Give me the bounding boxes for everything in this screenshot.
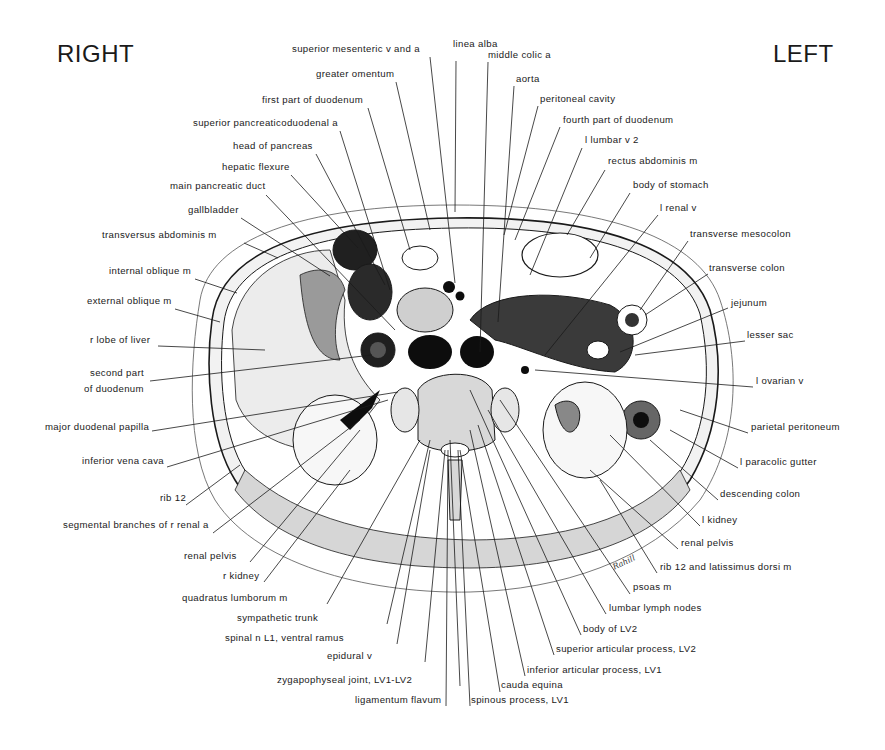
label-superior-mesenteric-v-and-a: superior mesenteric v and a (292, 43, 420, 54)
label-cauda-equina: cauda equina (501, 679, 563, 690)
label-quadratus-lumborum-m: quadratus lumborum m (182, 592, 288, 603)
label-second-part-of-duodenum-2: of duodenum (84, 383, 144, 394)
cauda-equina (441, 443, 469, 457)
label-rib-12-and-latissimus-dorsi-m: rib 12 and latissimus dorsi m (660, 561, 792, 572)
label-superior-pancreaticoduodenal-a: superior pancreaticoduodenal a (193, 117, 338, 128)
label-inferior-articular-process-lv1: inferior articular process, LV1 (527, 664, 662, 675)
label-renal-pelvis-r: renal pelvis (184, 550, 237, 561)
label-major-duodenal-papilla: major duodenal papilla (45, 421, 149, 432)
body-of-lv2 (418, 374, 495, 451)
leader-line (567, 170, 605, 235)
label-transverse-mesocolon: transverse mesocolon (690, 228, 791, 239)
label-middle-colic-a: middle colic a (488, 49, 551, 60)
label-sympathetic-trunk: sympathetic trunk (237, 612, 318, 623)
l-ovarian-v (521, 366, 529, 374)
label-superior-articular-process-lv2: superior articular process, LV2 (556, 643, 696, 654)
label-r-kidney: r kidney (223, 570, 259, 581)
label-main-pancreatic-duct: main pancreatic duct (170, 180, 266, 191)
label-gallbladder: gallbladder (188, 204, 239, 215)
label-jejunum: jejunum (731, 297, 767, 308)
label-rib-12: rib 12 (160, 492, 186, 503)
leader-line (504, 106, 538, 235)
label-linea-alba: linea alba (453, 38, 498, 49)
label-inferior-vena-cava: inferior vena cava (82, 455, 164, 466)
label-l-ovarian-v: l ovarian v (756, 375, 804, 386)
leader-line (186, 465, 240, 505)
label-segmental-branches-of-r-renal-a: segmental branches of r renal a (63, 519, 209, 530)
label-fourth-part-of-duodenum: fourth part of duodenum (563, 114, 673, 125)
label-transverse-colon: transverse colon (709, 262, 785, 273)
leader-line (455, 61, 456, 212)
leader-line (396, 82, 430, 230)
head-of-pancreas (397, 288, 453, 332)
label-transversus-abdominis-m: transversus abdominis m (102, 229, 217, 240)
label-peritoneal-cavity: peritoneal cavity (540, 93, 615, 104)
inferior-vena-cava (408, 335, 452, 369)
label-greater-omentum: greater omentum (316, 68, 394, 79)
label-l-lumbar-v-2: l lumbar v 2 (585, 134, 639, 145)
greater-omentum-vessel (402, 246, 438, 270)
hepatic-flexure-lower (348, 264, 392, 320)
label-r-lobe-of-liver: r lobe of liver (90, 334, 150, 345)
label-aorta: aorta (516, 73, 540, 84)
label-lumbar-lymph-nodes: lumbar lymph nodes (609, 602, 702, 613)
l-kidney (543, 382, 627, 478)
label-l-renal-v: l renal v (660, 202, 697, 213)
label-l-paracolic-gutter: l paracolic gutter (740, 456, 817, 467)
label-l-kidney: l kidney (702, 514, 737, 525)
label-psoas-m: psoas m (633, 581, 672, 592)
label-descending-colon: descending colon (720, 488, 800, 499)
superior-mesenteric-v (443, 281, 455, 293)
label-lesser-sac: lesser sac (747, 329, 794, 340)
label-internal-oblique-m: internal oblique m (109, 265, 191, 276)
label-renal-pelvis-l: renal pelvis (681, 537, 734, 548)
label-rectus-abdominis-m: rectus abdominis m (608, 155, 697, 166)
label-ligamentum-flavum: ligamentum flavum (355, 694, 441, 705)
label-body-of-lv2: body of LV2 (583, 623, 637, 634)
label-zygapophyseal-joint: zygapophyseal joint, LV1-LV2 (277, 674, 412, 685)
label-second-part-of-duodenum-1: second part (90, 367, 144, 378)
label-body-of-stomach: body of stomach (633, 179, 709, 190)
label-spinal-n-l1-ventral-ramus: spinal n L1, ventral ramus (225, 632, 344, 643)
label-spinous-process-lv1: spinous process, LV1 (471, 694, 569, 705)
psoas-m-r (391, 388, 419, 432)
label-external-oblique-m: external oblique m (87, 295, 172, 306)
label-hepatic-flexure: hepatic flexure (222, 161, 290, 172)
psoas-m (491, 388, 519, 432)
label-epidural-v: epidural v (327, 650, 372, 661)
label-head-of-pancreas: head of pancreas (233, 140, 313, 151)
superior-mesenteric-a (456, 292, 465, 301)
label-first-part-of-duodenum: first part of duodenum (262, 94, 363, 105)
label-parietal-peritoneum: parietal peritoneum (751, 421, 840, 432)
body-of-stomach (522, 233, 598, 277)
aorta (460, 336, 494, 368)
